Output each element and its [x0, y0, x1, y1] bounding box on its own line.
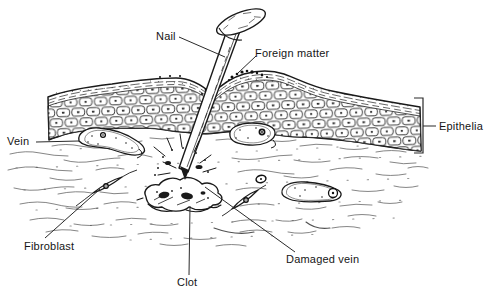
label-nail: Nail: [156, 31, 176, 42]
nail-head-shape: [213, 3, 268, 40]
small-cell-shape: [255, 174, 267, 184]
fibroblast-leader-line: [45, 189, 100, 238]
label-damaged-vein: Damaged vein: [286, 254, 359, 265]
label-fibroblast: Fibroblast: [24, 241, 74, 252]
clot-leader-line: [189, 206, 190, 275]
clot-and-damaged-vein-shape: [137, 166, 222, 212]
vein-shape-left: [79, 128, 145, 158]
label-foreign-matter: Foreign matter: [255, 48, 329, 59]
illustration-canvas: Nail Foreign matter Epithelia Vein Fibro…: [0, 0, 501, 298]
label-epithelia: Epithelia: [439, 121, 483, 132]
dermis-texture: [8, 138, 432, 246]
fibroblast-shape-right: [222, 185, 266, 216]
nail-leader-line: [179, 37, 225, 57]
label-clot: Clot: [177, 277, 197, 288]
label-vein: Vein: [7, 136, 29, 147]
vein-shape-lower: [282, 182, 341, 202]
vein-shape-middle: [230, 123, 276, 148]
wound-diagram-illustration: [0, 0, 501, 298]
vein-leader-line: [36, 141, 79, 142]
